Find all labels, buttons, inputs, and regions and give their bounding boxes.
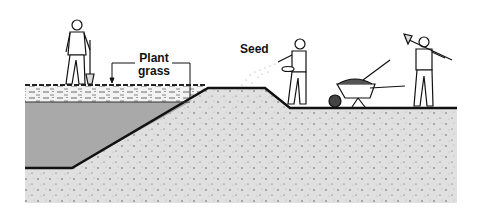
slope-cross-section: [0, 0, 484, 211]
seed-label: Seed: [240, 43, 269, 56]
plant-grass-label: Plant grass: [134, 52, 174, 78]
worker-left-figure: [66, 20, 94, 84]
worker-sowing-figure: [278, 39, 306, 104]
plant-grass-label-line2: grass: [134, 65, 174, 78]
worker-right-figure: [404, 34, 452, 106]
seed-spray: [241, 63, 275, 85]
wheelbarrow-figure: [329, 60, 405, 107]
